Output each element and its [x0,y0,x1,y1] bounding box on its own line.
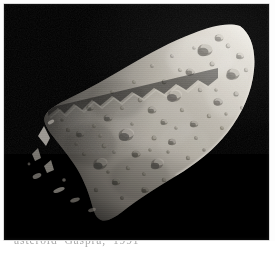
photograph-frame [4,4,269,240]
scanned-page: asteroid Gaspra, 1991 [0,0,275,253]
asteroid-body [4,4,269,240]
photo-caption: asteroid Gaspra, 1991 [14,241,266,246]
asteroid-image [4,4,269,240]
caption-strip: asteroid Gaspra, 1991 [0,241,275,253]
